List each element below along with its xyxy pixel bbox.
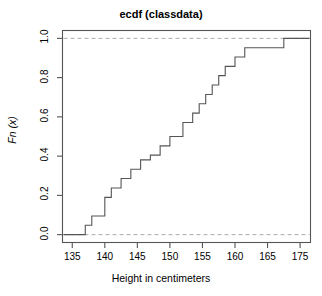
y-tick-label-0.4: 0.4: [39, 142, 50, 168]
x-tick-label-175: 175: [285, 251, 315, 262]
y-tick-label-0.8: 0.8: [39, 63, 50, 89]
y-tick-label-0: 0.0: [39, 220, 50, 246]
x-tick-label-160: 160: [220, 251, 250, 262]
plot-frame: [63, 31, 311, 243]
ecdf-step-curve: [64, 38, 310, 234]
x-tick-label-155: 155: [187, 251, 217, 262]
y-axis-label: Fn (x): [6, 90, 18, 170]
x-tick-label-140: 140: [90, 251, 120, 262]
y-tick-label-1: 1.0: [39, 24, 50, 50]
y-tick-label-0.2: 0.2: [39, 181, 50, 207]
x-tick-label-135: 135: [57, 251, 87, 262]
x-axis-label: Height in centimeters: [0, 272, 322, 284]
x-tick-label-150: 150: [155, 251, 185, 262]
x-tick-label-165: 165: [253, 251, 283, 262]
y-tick-label-0.6: 0.6: [39, 102, 50, 128]
x-tick-label-145: 145: [122, 251, 152, 262]
ecdf-plot-figure: ecdf (classdata) Fn (x) Height in centim…: [0, 0, 322, 296]
